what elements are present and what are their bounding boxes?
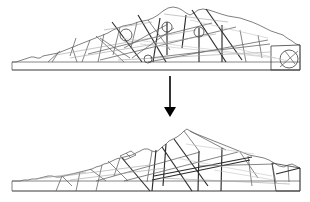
slope-outline-bottom <box>12 129 300 191</box>
arrow-head-icon <box>164 107 176 117</box>
top-panel <box>12 7 300 70</box>
figure-canvas <box>0 0 310 202</box>
process-arrow <box>164 76 176 117</box>
bottom-panel <box>12 129 300 191</box>
rock-slope-figure <box>0 0 310 202</box>
